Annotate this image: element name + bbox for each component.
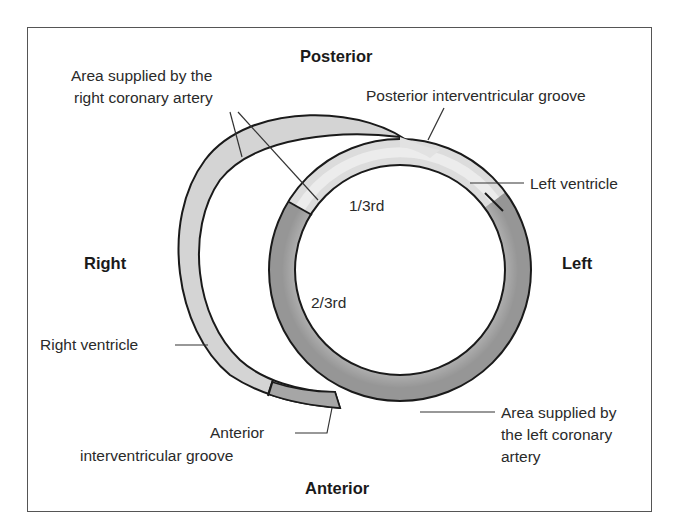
label-anterior-groove-line2: interventricular groove bbox=[80, 446, 233, 465]
label-posterior: Posterior bbox=[300, 47, 372, 66]
label-one-third: 1/3rd bbox=[349, 196, 384, 215]
label-two-third: 2/3rd bbox=[311, 293, 346, 312]
label-left-ventricle: Left ventricle bbox=[530, 174, 618, 193]
left-ventricle-wall bbox=[269, 139, 531, 401]
label-anterior: Anterior bbox=[305, 479, 369, 498]
label-rca-area-line2: right coronary artery bbox=[74, 88, 213, 107]
label-right: Right bbox=[84, 254, 126, 273]
label-posterior-groove: Posterior interventricular groove bbox=[366, 86, 586, 105]
label-anterior-groove-line1: Anterior bbox=[210, 423, 264, 442]
label-left: Left bbox=[562, 254, 592, 273]
label-lca-area-line2: the left coronary bbox=[501, 425, 612, 444]
label-rca-area-line1: Area supplied by the bbox=[71, 66, 212, 85]
label-lca-area-line1: Area supplied by bbox=[501, 403, 616, 422]
label-right-ventricle: Right ventricle bbox=[40, 335, 138, 354]
label-lca-area-line3: artery bbox=[501, 447, 541, 466]
